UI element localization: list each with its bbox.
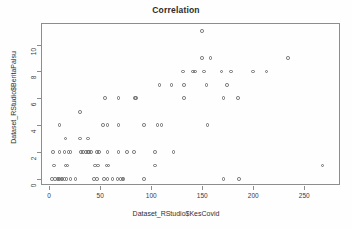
data-point — [193, 70, 197, 74]
data-point — [63, 150, 67, 154]
data-point — [202, 70, 206, 74]
x-axis-title: Dataset_RStudio$KesCovid — [0, 210, 352, 217]
x-tick-label: 250 — [292, 192, 316, 199]
chart-title: Correlation — [0, 5, 352, 15]
data-point — [170, 83, 174, 87]
y-axis-title: Dataset_RStudio$BeritaPalsu — [10, 23, 17, 173]
data-point — [101, 123, 105, 127]
data-point — [117, 96, 121, 100]
x-tick-label: 150 — [190, 192, 214, 199]
data-point — [51, 150, 55, 154]
data-point — [200, 56, 204, 60]
data-points-layer — [41, 23, 340, 185]
data-point — [107, 164, 111, 168]
data-point — [69, 177, 73, 181]
data-point — [74, 177, 78, 181]
x-tick-mark — [49, 186, 50, 190]
x-tick-mark — [253, 186, 254, 190]
x-tick-mark — [151, 186, 152, 190]
x-tick-label: 0 — [37, 192, 61, 199]
x-tick-label: 50 — [88, 192, 112, 199]
data-point — [132, 150, 136, 154]
data-point — [236, 96, 240, 100]
data-point — [229, 70, 233, 74]
data-point — [286, 56, 290, 60]
data-point — [95, 177, 99, 181]
data-point — [125, 150, 129, 154]
data-point — [106, 123, 110, 127]
data-point — [58, 123, 62, 127]
data-point — [153, 164, 157, 168]
y-tick-label: 4 — [30, 125, 37, 139]
data-point — [160, 123, 164, 127]
x-tick-mark — [304, 186, 305, 190]
scatter-plot-figure: Correlation 0246810 050100150200250 Data… — [0, 0, 352, 229]
data-point — [89, 150, 93, 154]
data-point — [78, 137, 82, 141]
data-point — [106, 177, 110, 181]
y-tick-label: 8 — [30, 71, 37, 85]
data-point — [265, 70, 269, 74]
data-point — [52, 164, 56, 168]
data-point — [220, 70, 224, 74]
data-point — [65, 177, 69, 181]
data-point — [321, 164, 325, 168]
data-point — [209, 56, 213, 60]
data-point — [142, 177, 146, 181]
data-point — [158, 83, 162, 87]
data-point — [222, 96, 226, 100]
data-point — [69, 150, 73, 154]
data-point — [122, 177, 126, 181]
data-point — [103, 96, 107, 100]
data-point — [222, 177, 226, 181]
data-point — [205, 83, 209, 87]
y-tick-label: 0 — [30, 178, 37, 192]
data-point — [134, 96, 138, 100]
data-point — [182, 83, 186, 87]
data-point — [78, 110, 82, 114]
data-point — [86, 137, 90, 141]
data-point — [200, 29, 204, 33]
data-point — [66, 164, 70, 168]
data-point — [206, 123, 210, 127]
data-point — [111, 177, 115, 181]
y-tick-label: 10 — [30, 44, 37, 58]
data-point — [58, 150, 62, 154]
x-tick-mark — [100, 186, 101, 190]
y-tick-label: 2 — [30, 152, 37, 166]
data-point — [64, 137, 68, 141]
x-tick-label: 100 — [139, 192, 163, 199]
data-point — [181, 70, 185, 74]
data-point — [117, 123, 121, 127]
data-point — [182, 96, 186, 100]
data-point — [156, 123, 160, 127]
x-tick-label: 200 — [241, 192, 265, 199]
y-tick-label: 6 — [30, 98, 37, 112]
data-point — [172, 150, 176, 154]
data-point — [106, 150, 110, 154]
data-point — [225, 83, 229, 87]
data-point — [237, 177, 241, 181]
data-point — [251, 70, 255, 74]
data-point — [153, 150, 157, 154]
data-point — [97, 150, 101, 154]
data-point — [142, 123, 146, 127]
data-point — [117, 150, 121, 154]
x-tick-mark — [202, 186, 203, 190]
data-point — [96, 164, 100, 168]
